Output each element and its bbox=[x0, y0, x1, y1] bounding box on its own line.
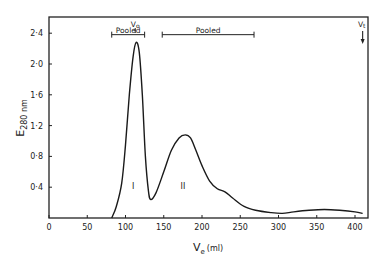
x-tick-label: 250 bbox=[233, 223, 248, 232]
x-tick-label: 100 bbox=[118, 223, 133, 232]
x-tick-label: 400 bbox=[347, 223, 362, 232]
x-tick-label: 350 bbox=[309, 223, 324, 232]
y-tick-label: 2·0 bbox=[30, 60, 43, 69]
x-tick-label: 200 bbox=[194, 223, 209, 232]
svg-text:Ve(ml): Ve(ml) bbox=[193, 241, 223, 256]
peak-label: II bbox=[181, 182, 186, 191]
y-tick-label: 1·2 bbox=[30, 122, 43, 131]
plot-frame bbox=[49, 17, 368, 218]
elution-chart: 050100150200250300350400 0·40·81·21·62·0… bbox=[0, 0, 389, 266]
peak-label: I bbox=[132, 182, 134, 191]
x-tick-label: 150 bbox=[156, 223, 171, 232]
y-axis-label: E280 nm bbox=[14, 99, 29, 137]
x-tick-label: 0 bbox=[46, 223, 51, 232]
y-tick-label: 2·4 bbox=[30, 29, 43, 38]
volume-marker-label: Vt bbox=[358, 20, 366, 29]
x-tick-label: 50 bbox=[82, 223, 92, 232]
elution-curve bbox=[112, 42, 363, 218]
x-tick-label: 300 bbox=[271, 223, 286, 232]
y-tick-label: 0·4 bbox=[30, 183, 43, 192]
pooled-label: Pooled bbox=[196, 26, 221, 35]
svg-text:E280 nm: E280 nm bbox=[14, 99, 29, 137]
y-tick-label: 1·6 bbox=[30, 91, 43, 100]
y-tick-label: 0·8 bbox=[30, 152, 43, 161]
x-axis-label: Ve(ml) bbox=[193, 241, 223, 256]
annotations: VoVtPooledPooledIII bbox=[112, 20, 366, 191]
pooled-label: Pooled bbox=[116, 26, 141, 35]
